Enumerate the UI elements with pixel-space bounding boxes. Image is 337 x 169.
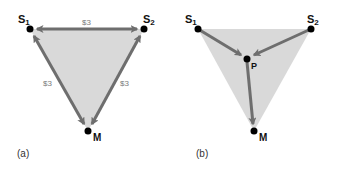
node-s2-a bbox=[141, 26, 148, 33]
diagram-canvas: $3 $3 $3 S1 S2 M (a) S1 S2 P M (b) bbox=[0, 0, 337, 169]
label-m-a: M bbox=[93, 132, 101, 143]
caption-b: (b) bbox=[196, 148, 208, 159]
label-s1-a: S1 bbox=[18, 13, 30, 27]
cost-label-s1-m: $3 bbox=[43, 79, 52, 88]
panel-a: $3 $3 $3 S1 S2 M (a) bbox=[17, 13, 155, 159]
label-s2-a: S2 bbox=[143, 13, 155, 27]
label-s2-b: S2 bbox=[307, 13, 319, 27]
label-p-b: P bbox=[251, 61, 257, 71]
label-s1-b: S1 bbox=[185, 13, 197, 27]
cost-label-s1-s2: $3 bbox=[82, 18, 91, 27]
node-p-b bbox=[244, 56, 251, 63]
node-m-a bbox=[85, 128, 92, 135]
caption-a: (a) bbox=[17, 148, 29, 159]
node-m-b bbox=[251, 128, 258, 135]
cost-label-s2-m: $3 bbox=[120, 79, 129, 88]
panel-b: S1 S2 P M (b) bbox=[185, 13, 319, 159]
label-m-b: M bbox=[259, 132, 267, 143]
triangle-region-b bbox=[198, 29, 311, 131]
